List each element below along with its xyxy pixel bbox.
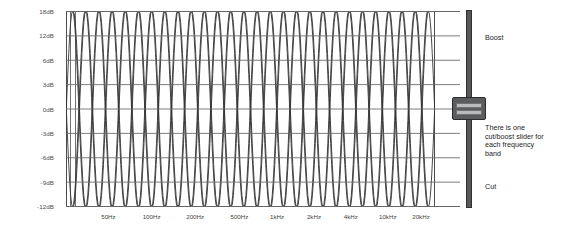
x-axis-tick-label: 200Hz: [186, 213, 204, 220]
y-axis-tick-label: 0dB: [43, 105, 54, 112]
frequency-response-plot: [66, 11, 435, 207]
slider-description: There is one cut/boost slider for each f…: [485, 124, 577, 158]
response-curves: [66, 11, 435, 207]
slider-handle[interactable]: [452, 97, 486, 120]
cut-label: Cut: [485, 183, 496, 192]
x-axis-tick-label: 2kHz: [307, 213, 321, 220]
slider-handle-band-top: [456, 103, 482, 108]
cut-boost-slider[interactable]: [463, 10, 475, 208]
x-axis-tick-label: 500Hz: [230, 213, 248, 220]
boost-label: Boost: [485, 34, 503, 43]
y-axis-tick-label: -9dB: [41, 178, 54, 185]
y-axis-tick-label: 3dB: [43, 81, 54, 88]
y-axis-tick-label: 18dB: [39, 8, 54, 15]
eq-diagram: 18dB12dB6dB3dB0dB-3dB-6dB-9dB-12dB 50Hz1…: [0, 0, 582, 228]
y-axis-tick-label: -6dB: [41, 154, 54, 161]
slider-handle-band-bottom: [456, 110, 482, 115]
x-axis-tick-label: 100Hz: [143, 213, 161, 220]
y-axis-tick-label: -3dB: [41, 129, 54, 136]
x-axis-tick-label: 10kHz: [379, 213, 397, 220]
x-axis-tick-label: 1kHz: [270, 213, 284, 220]
y-axis-tick-label: 12dB: [39, 32, 54, 39]
y-axis-tick-label: 6dB: [43, 56, 54, 63]
x-axis-tick-label: 4kHz: [344, 213, 358, 220]
x-axis-tick-label: 20kHz: [412, 213, 430, 220]
x-axis: 50Hz100Hz200Hz500Hz1kHz2kHz4kHz10kHz20kH…: [0, 207, 470, 228]
y-axis: 18dB12dB6dB3dB0dB-3dB-6dB-9dB-12dB: [0, 0, 60, 228]
x-axis-tick-label: 50Hz: [101, 213, 115, 220]
